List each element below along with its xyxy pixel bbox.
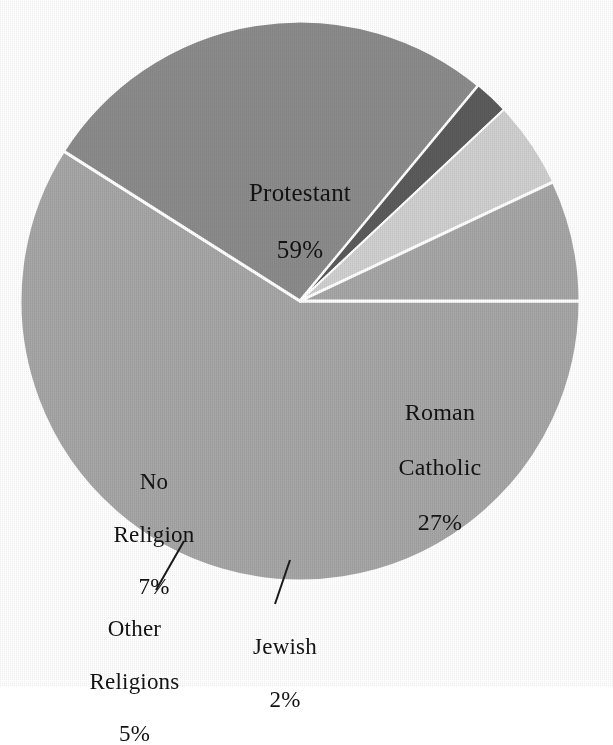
slice-label-other-religions: Other Religions 5%: [52, 590, 217, 745]
slice-label-roman-catholic-line2: Catholic: [340, 454, 540, 481]
slice-label-jewish-name: Jewish: [215, 634, 355, 660]
slice-label-other-religions-line1: Other: [52, 616, 217, 642]
slice-label-protestant: Protestant 59%: [185, 150, 415, 293]
slice-label-other-religions-line2: Religions: [52, 669, 217, 695]
slice-label-roman-catholic-line1: Roman: [340, 399, 540, 426]
slice-label-other-religions-percent: 5%: [52, 721, 217, 745]
slice-label-roman-catholic-percent: 27%: [340, 509, 540, 536]
slice-label-jewish-percent: 2%: [215, 687, 355, 713]
slice-label-jewish: Jewish 2%: [215, 608, 355, 739]
slice-label-no-religion-line2: Religion: [79, 522, 229, 548]
slice-label-protestant-name: Protestant: [185, 179, 415, 208]
slice-label-no-religion-line1: No: [79, 469, 229, 495]
slice-label-roman-catholic: Roman Catholic 27%: [340, 372, 540, 564]
slice-label-protestant-percent: 59%: [185, 236, 415, 265]
